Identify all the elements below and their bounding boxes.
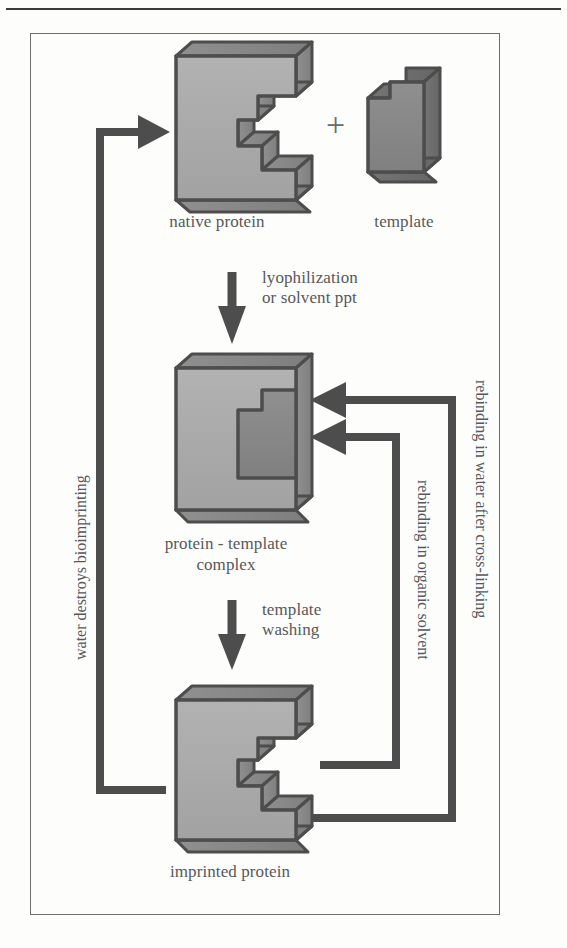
figure-frame bbox=[30, 33, 500, 915]
water-destroys-label: water destroys bioimprinting bbox=[72, 475, 90, 660]
template-label: template bbox=[345, 212, 463, 231]
lyophilization-label: lyophilization or solvent ppt bbox=[262, 268, 358, 307]
figure-page: native protein template + lyophilization… bbox=[0, 0, 567, 948]
template-washing-label: template washing bbox=[262, 600, 321, 639]
rebinding-organic-label: rebinding in organic solvent bbox=[414, 480, 432, 660]
complex-label-line1: protein - template bbox=[118, 534, 334, 553]
rebinding-water-label: rebinding in water after cross-linking bbox=[472, 380, 490, 618]
plus-operator: + bbox=[326, 108, 345, 142]
page-top-rule bbox=[6, 8, 561, 10]
complex-label-line2: complex bbox=[118, 555, 334, 574]
imprinted-protein-label: imprinted protein bbox=[140, 862, 320, 881]
native-protein-label: native protein bbox=[152, 212, 282, 231]
